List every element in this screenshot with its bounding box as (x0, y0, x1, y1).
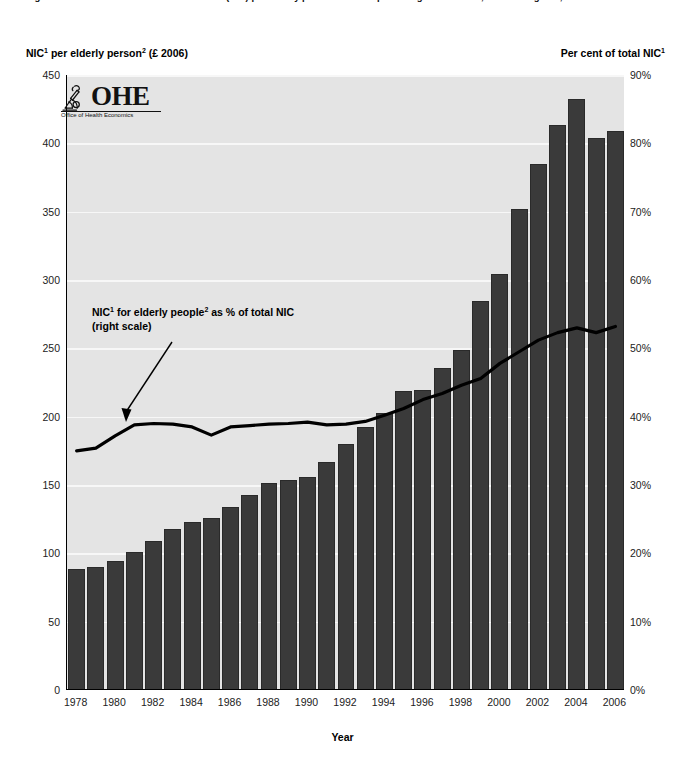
left-axis-tick-label: 0 (14, 684, 60, 696)
x-axis-title: Year (0, 731, 685, 743)
right-axis-title-pre: Per cent of total NIC (561, 47, 661, 59)
right-axis-tick-label: 90% (630, 69, 676, 81)
right-axis-tick-label: 10% (630, 616, 676, 628)
left-axis-title-post: (£ 2006) (146, 47, 188, 59)
right-axis-tick-label: 60% (630, 274, 676, 286)
right-axis-tick-label: 80% (630, 137, 676, 149)
left-axis-ticks: 050100150200250300350400450 (8, 75, 60, 690)
left-axis-tick-label: 350 (14, 206, 60, 218)
x-axis-tick-label: 2004 (564, 696, 587, 708)
x-axis-tick-label: 1982 (141, 696, 164, 708)
figure-caption-text: Figure 3.6 National Insurance Contributi… (0, 0, 685, 3)
right-axis-tick-label: 30% (630, 479, 676, 491)
annot-post: as % of total NIC (208, 306, 294, 318)
left-axis-tick-label: 150 (14, 479, 60, 491)
x-axis-ticks: 1978198019821984198619881990199219941996… (66, 696, 624, 712)
ohe-subtitle: Office of Health Economics (61, 112, 133, 118)
line-annotation-line1: NIC1 for elderly people2 as % of total N… (92, 305, 294, 319)
microscope-icon (60, 84, 94, 114)
line-annotation: NIC1 for elderly people2 as % of total N… (92, 305, 294, 333)
left-axis-title-pre: NIC (26, 47, 44, 59)
right-axis-tick-label: 0% (630, 684, 676, 696)
arrow-head (122, 408, 132, 422)
right-axis-tick-label: 70% (630, 206, 676, 218)
left-axis-tick-label: 450 (14, 69, 60, 81)
x-axis-tick-label: 2000 (487, 696, 510, 708)
x-axis-tick-label: 1990 (295, 696, 318, 708)
x-axis-tick-label: 1996 (410, 696, 433, 708)
x-axis-tick-label: 1998 (449, 696, 472, 708)
annotation-arrow (60, 330, 180, 450)
right-axis-ticks: 0%10%20%30%40%50%60%70%80%90% (630, 75, 682, 690)
left-axis-tick-label: 250 (14, 342, 60, 354)
x-axis-tick-label: 1986 (218, 696, 241, 708)
right-axis-tick-label: 40% (630, 411, 676, 423)
ohe-wordmark: OHE (91, 83, 150, 110)
left-axis-tick-label: 200 (14, 411, 60, 423)
annot-mid: for elderly people (114, 306, 204, 318)
figure-caption: Figure 3.6 National Insurance Contributi… (0, 0, 685, 5)
left-axis-title: NIC1 per elderly person2 (£ 2006) (26, 47, 188, 59)
right-axis-title-sup1: 1 (661, 47, 665, 54)
x-axis-tick-label: 1978 (64, 696, 87, 708)
left-axis-tick-label: 100 (14, 547, 60, 559)
x-axis-tick-label: 1984 (179, 696, 202, 708)
chart-page: Figure 3.6 National Insurance Contributi… (0, 0, 685, 783)
left-axis-tick-label: 50 (14, 616, 60, 628)
ohe-logo: OHE Office of Health Economics (60, 84, 164, 128)
x-axis-tick-label: 2002 (526, 696, 549, 708)
right-axis-tick-label: 50% (630, 342, 676, 354)
x-axis-tick-label: 1994 (372, 696, 395, 708)
right-axis-title: Per cent of total NIC1 (561, 47, 665, 59)
x-axis-tick-label: 1988 (256, 696, 279, 708)
left-axis-title-mid: per elderly person (48, 47, 142, 59)
left-axis-tick-label: 300 (14, 274, 60, 286)
x-axis-tick-label: 1980 (102, 696, 125, 708)
x-axis-tick-label: 2006 (603, 696, 626, 708)
right-axis-tick-label: 20% (630, 547, 676, 559)
arrow-shaft (126, 342, 172, 412)
annot-pre: NIC (92, 306, 110, 318)
left-axis-tick-label: 400 (14, 137, 60, 149)
x-axis-tick-label: 1992 (333, 696, 356, 708)
